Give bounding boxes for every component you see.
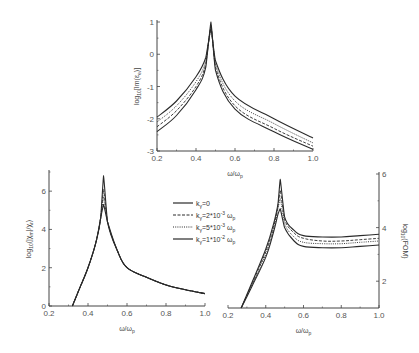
x-tick-label: 0.4	[260, 311, 272, 320]
y-tick-label: -3	[147, 147, 155, 156]
y-axis-label: log10​[Im(εe​)]	[133, 68, 142, 105]
y-tick-label: -1	[147, 83, 155, 92]
x-tick-label: 0.6	[121, 309, 133, 318]
x-tick-label: 1.0	[373, 311, 385, 320]
x-axis-label: ω/ωp​	[296, 327, 312, 336]
y-tick-label: 4	[382, 224, 387, 233]
legend: kγ​=0kγ​=2*10-3​ ωp​kγ​=5*10-3​ ωp​kγ​=1…	[173, 200, 235, 245]
y-tick-label: 2	[42, 264, 47, 273]
y-tick-label: -2	[147, 115, 155, 124]
x-tick-label: 1.0	[199, 309, 211, 318]
x-tick-label: 0.6	[298, 311, 310, 320]
y-tick-label: 2	[382, 277, 387, 286]
bottom-left-chart: 0.20.40.60.81.00246ω/ωp​log10​(|χm​|/χr​…	[25, 170, 211, 334]
series-line	[241, 190, 379, 308]
x-tick-label: 0.8	[336, 311, 348, 320]
figure-canvas: 0.20.40.60.81.0-3-2-101ω/ωp​log10​[Im(εe…	[0, 0, 419, 353]
series-line	[157, 27, 313, 143]
top-chart: 0.20.40.60.81.0-3-2-101ω/ωp​log10​[Im(εe…	[133, 18, 319, 179]
bottom-right-chart: 0.20.40.60.81.0246ω/ωp​log10​(FOM)	[222, 170, 409, 336]
series-line	[72, 176, 205, 306]
legend-label: kγ​=0	[196, 200, 210, 209]
x-axis-label: ω/ωp​	[227, 170, 243, 179]
series-line	[241, 179, 379, 308]
y-tick-label: 0	[150, 50, 155, 59]
series-line	[72, 204, 205, 306]
y-tick-label: 6	[382, 170, 387, 179]
series-line	[241, 198, 379, 308]
y-tick-label: 6	[42, 187, 47, 196]
series-line	[72, 189, 205, 306]
x-tick-label: 0.2	[222, 311, 234, 320]
series-line	[157, 25, 313, 146]
x-tick-label: 0.8	[160, 309, 172, 318]
y-axis-label: log10​(FOM)	[400, 223, 409, 258]
legend-label: kγ​=2*10-3​ ωp​	[196, 210, 235, 221]
y-tick-label: 4	[42, 225, 47, 234]
x-tick-label: 1.0	[307, 154, 319, 163]
y-tick-label: 1	[150, 18, 155, 27]
x-tick-label: 0.6	[229, 154, 241, 163]
y-tick-label: 0	[42, 302, 47, 311]
series-line	[157, 28, 313, 138]
legend-label: kγ​=5*10-3​ ωp​	[196, 222, 235, 233]
x-tick-label: 0.4	[82, 309, 94, 318]
x-tick-label: 0.8	[268, 154, 280, 163]
y-axis-label: log10​(|χm​|/χr​)	[25, 220, 34, 258]
x-tick-label: 0.4	[190, 154, 202, 163]
series-line	[157, 22, 313, 149]
legend-label: kγ​=1*10-2​ ωp​	[196, 234, 235, 245]
x-axis-label: ω/ωp​	[119, 325, 135, 334]
